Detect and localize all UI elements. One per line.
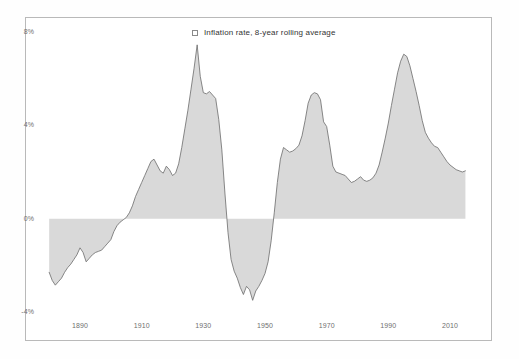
x-tick-label: 1930 xyxy=(183,322,223,329)
chart-frame xyxy=(25,17,492,341)
x-tick-label: 1890 xyxy=(60,322,100,329)
y-tick-label: 4% xyxy=(8,121,34,128)
y-tick-label: -4% xyxy=(8,308,34,315)
inflation-chart: -4%0%4%8% 1890191019301950197019902010 I… xyxy=(0,0,519,359)
y-tick-label: 8% xyxy=(8,28,34,35)
legend-label: Inflation rate, 8-year rolling average xyxy=(204,28,336,37)
x-tick-label: 1910 xyxy=(122,322,162,329)
y-tick-label: 0% xyxy=(8,215,34,222)
x-tick-label: 1950 xyxy=(245,322,285,329)
x-tick-label: 1990 xyxy=(368,322,408,329)
legend-swatch-icon xyxy=(192,30,198,36)
x-tick-label: 1970 xyxy=(307,322,347,329)
chart-legend: Inflation rate, 8-year rolling average xyxy=(192,28,336,37)
x-tick-label: 2010 xyxy=(430,322,470,329)
